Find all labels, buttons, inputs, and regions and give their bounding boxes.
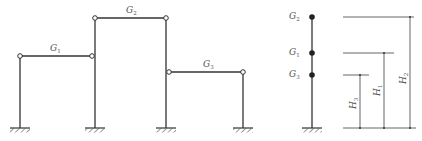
label-mass-g1: G1 bbox=[289, 47, 300, 58]
hinge-icon bbox=[18, 54, 23, 59]
label-g1: G1 bbox=[50, 43, 61, 54]
mass-g1-icon bbox=[309, 50, 315, 56]
mass-g2-icon bbox=[309, 14, 315, 20]
fixed-support-icon bbox=[10, 128, 30, 133]
label-mass-g3: G3 bbox=[289, 69, 300, 80]
label-g2: G2 bbox=[126, 5, 137, 16]
label-h1: H1 bbox=[372, 85, 383, 97]
fixed-support-icon bbox=[302, 128, 322, 133]
hinge-icon bbox=[90, 54, 95, 59]
hinge-icon bbox=[164, 16, 169, 21]
label-g3: G3 bbox=[203, 59, 214, 70]
label-h2: H2 bbox=[398, 73, 409, 85]
hinge-icon bbox=[241, 70, 246, 75]
diagram-canvas: G1 G2 G3 G2 G1 G3 H3 H1 H2 bbox=[0, 0, 422, 141]
mass-g3-icon bbox=[309, 72, 315, 78]
dimension-lines bbox=[343, 17, 416, 128]
dimension-ticks bbox=[359, 16, 411, 129]
hinge-icon bbox=[93, 16, 98, 21]
fixed-supports bbox=[10, 128, 253, 133]
fixed-support-icon bbox=[85, 128, 105, 133]
stick-model bbox=[302, 14, 322, 132]
fixed-support-icon bbox=[156, 128, 176, 133]
frame-structure bbox=[20, 18, 243, 128]
label-h3: H3 bbox=[348, 97, 359, 110]
hinge-icon bbox=[167, 70, 172, 75]
label-mass-g2: G2 bbox=[289, 11, 300, 22]
fixed-support-icon bbox=[233, 128, 253, 133]
